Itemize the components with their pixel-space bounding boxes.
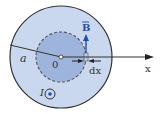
radius-label: a: [20, 52, 27, 65]
conductor-diagram: a 0 B x dx I: [0, 0, 160, 114]
origin-label: 0: [52, 59, 58, 70]
current-symbol-dot: [48, 92, 52, 96]
field-label: B: [82, 22, 90, 33]
dx-label: dx: [89, 65, 101, 76]
axis-label: x: [145, 63, 151, 74]
origin-point: [59, 55, 63, 59]
x-axis-arrowhead: [145, 54, 154, 60]
